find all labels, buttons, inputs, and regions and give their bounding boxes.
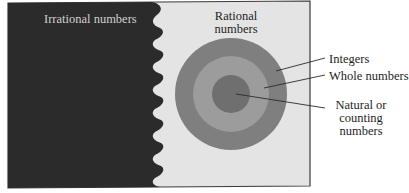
irrational-region: [8, 2, 163, 188]
integers-label: Integers: [329, 52, 369, 66]
irrational-numbers-label: Irrational numbers: [44, 12, 137, 26]
rational-numbers-label: Rational numbers: [208, 10, 264, 36]
natural-numbers-label: Natural or counting numbers: [327, 99, 395, 138]
whole-numbers-label: Whole numbers: [329, 69, 409, 83]
natural-numbers-disc: [212, 75, 250, 113]
